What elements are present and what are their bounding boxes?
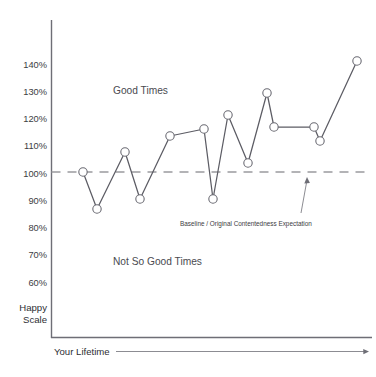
y-tick-label-120: 120% bbox=[23, 114, 47, 124]
y-axis-caption-line2: Scale bbox=[23, 314, 47, 325]
data-point-marker bbox=[310, 123, 318, 131]
good-times-label: Good Times bbox=[113, 85, 168, 96]
y-tick-label-100: 100% bbox=[23, 169, 47, 179]
chart-background bbox=[0, 0, 376, 377]
data-point-marker bbox=[166, 132, 174, 140]
chart-page: 140% 130% 120% 110% 100% 90% 80% 70% 60%… bbox=[0, 0, 376, 377]
y-tick-label-140: 140% bbox=[23, 60, 47, 70]
data-point-marker bbox=[270, 123, 278, 131]
data-point-marker bbox=[209, 195, 217, 203]
y-tick-label-90: 90% bbox=[28, 196, 47, 206]
y-tick-label-80: 80% bbox=[28, 223, 47, 233]
y-axis-caption-line1: Happy bbox=[19, 302, 47, 313]
data-point-marker bbox=[200, 125, 208, 133]
data-point-marker bbox=[244, 159, 252, 167]
x-axis-caption: Your Lifetime bbox=[54, 346, 110, 357]
data-point-marker bbox=[224, 111, 232, 119]
data-point-marker bbox=[353, 57, 361, 65]
y-tick-label-110: 110% bbox=[24, 141, 47, 151]
data-point-marker bbox=[93, 205, 101, 213]
not-so-good-times-label: Not So Good Times bbox=[113, 256, 202, 267]
data-point-marker bbox=[263, 89, 271, 97]
data-point-marker bbox=[316, 137, 324, 145]
baseline-annotation-label: Baseline / Original Contentedness Expect… bbox=[180, 220, 312, 228]
data-point-marker bbox=[79, 168, 87, 176]
happiness-lifetime-line-chart: 140% 130% 120% 110% 100% 90% 80% 70% 60%… bbox=[0, 0, 376, 377]
y-tick-label-70: 70% bbox=[28, 250, 47, 260]
y-tick-label-60: 60% bbox=[28, 278, 47, 288]
data-point-marker bbox=[121, 148, 129, 156]
data-point-marker bbox=[136, 195, 144, 203]
y-tick-label-130: 130% bbox=[23, 87, 47, 97]
